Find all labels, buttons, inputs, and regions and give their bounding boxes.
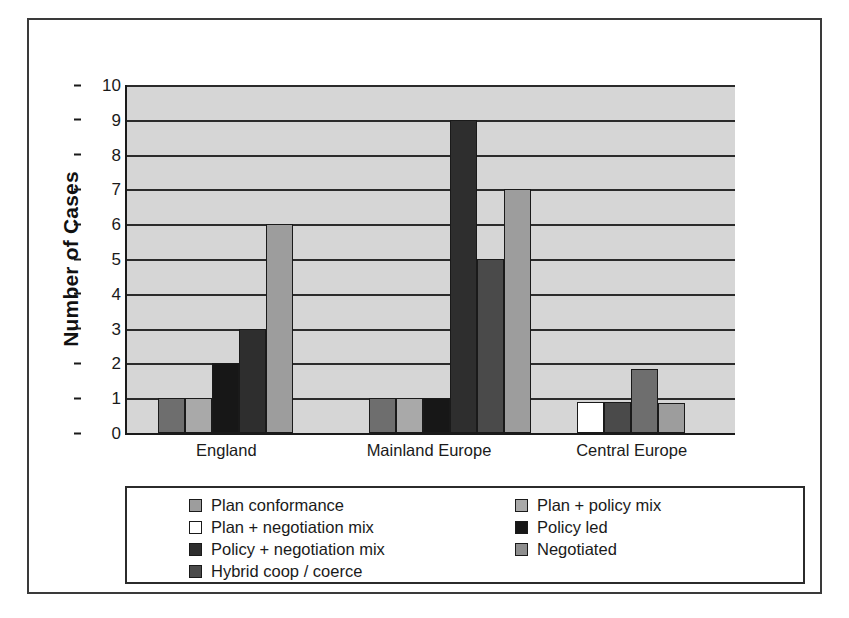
bar: [369, 398, 396, 433]
legend-swatch-icon: [515, 499, 528, 512]
legend-swatch-icon: [189, 543, 202, 556]
y-axis-tick-label: 5: [81, 251, 121, 268]
y-axis-tick-mark: [74, 397, 81, 399]
y-axis-tick-label: 2: [81, 355, 121, 372]
legend-swatch-icon: [515, 543, 528, 556]
legend-item-label: Hybrid coop / coerce: [211, 563, 362, 580]
legend-item[interactable]: Policy led: [515, 517, 661, 538]
legend-item[interactable]: Hybrid coop / coerce: [189, 561, 385, 582]
legend-item[interactable]: Plan + policy mix: [515, 495, 661, 516]
bar: [185, 398, 212, 433]
gridline: [127, 329, 735, 331]
y-axis-tick-label: 3: [81, 320, 121, 337]
bar: [396, 398, 423, 433]
x-axis-category-label: Central Europe: [576, 441, 687, 460]
bar: [631, 369, 658, 433]
y-axis-tick-label: 10: [81, 77, 121, 94]
y-axis-tick-mark: [74, 258, 81, 260]
gridline: [127, 294, 735, 296]
legend-item[interactable]: Plan + negotiation mix: [189, 517, 385, 538]
legend-item-label: Plan conformance: [211, 497, 344, 514]
legend-swatch-icon: [515, 521, 528, 534]
legend-swatch-icon: [189, 521, 202, 534]
legend-item-label: Plan + negotiation mix: [211, 519, 374, 536]
bar: [212, 363, 239, 433]
gridline: [127, 259, 735, 261]
y-axis-tick-label: 0: [81, 425, 121, 442]
gridline: [127, 85, 735, 87]
x-axis-category-label: England: [196, 441, 257, 460]
y-axis-tick-mark: [74, 188, 81, 190]
legend-item[interactable]: Plan conformance: [189, 495, 385, 516]
y-axis-tick-label: 9: [81, 111, 121, 128]
plot-area: [125, 85, 735, 435]
bar: [604, 402, 631, 433]
legend-item-label: Negotiated: [537, 541, 617, 558]
chart-figure: Number of Cases 012345678910 EnglandMain…: [0, 0, 849, 618]
legend-item-label: Policy led: [537, 519, 608, 536]
y-axis-tick-mark: [74, 432, 81, 434]
y-axis-tick-label: 8: [81, 146, 121, 163]
plot-region: 012345678910 EnglandMainland EuropeCentr…: [125, 85, 733, 433]
bar: [477, 259, 504, 433]
bar: [266, 224, 293, 433]
gridline: [127, 189, 735, 191]
chart-legend: Plan conformancePlan + negotiation mixPo…: [125, 486, 805, 584]
legend-item[interactable]: Negotiated: [515, 539, 661, 560]
legend-item[interactable]: Policy + negotiation mix: [189, 539, 385, 560]
legend-column-right: Plan + policy mixPolicy ledNegotiated: [515, 495, 661, 561]
y-axis-tick-mark: [74, 328, 81, 330]
y-axis-tick-mark: [74, 119, 81, 121]
y-axis-tick-label: 4: [81, 285, 121, 302]
y-axis-tick-mark: [74, 362, 81, 364]
gridline: [127, 155, 735, 157]
legend-swatch-icon: [189, 565, 202, 578]
y-axis-tick-mark: [74, 223, 81, 225]
legend-item-label: Plan + policy mix: [537, 497, 661, 514]
bar: [239, 329, 266, 433]
figure-frame: Number of Cases 012345678910 EnglandMain…: [27, 18, 822, 594]
gridline: [127, 224, 735, 226]
y-axis-tick-mark: [74, 84, 81, 86]
x-axis-category-label: Mainland Europe: [367, 441, 492, 460]
bar: [450, 120, 477, 433]
bar: [504, 189, 531, 433]
gridline: [127, 120, 735, 122]
y-axis-tick-label: 6: [81, 216, 121, 233]
bar: [577, 402, 604, 433]
bar: [423, 398, 450, 433]
legend-swatch-icon: [189, 499, 202, 512]
legend-item-label: Policy + negotiation mix: [211, 541, 385, 558]
y-axis-tick-label: 1: [81, 390, 121, 407]
bar: [658, 403, 685, 433]
y-axis-title: Number of Cases: [59, 0, 85, 85]
y-axis-tick-mark: [74, 293, 81, 295]
legend-column-left: Plan conformancePlan + negotiation mixPo…: [189, 495, 385, 583]
bar: [158, 398, 185, 433]
y-axis-tick-mark: [74, 154, 81, 156]
y-axis-tick-label: 7: [81, 181, 121, 198]
